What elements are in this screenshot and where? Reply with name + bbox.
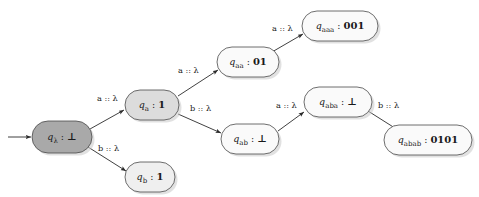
transition-edge-q_a-q_ab — [178, 114, 221, 133]
state-node-q_aaa[interactable]: qaaa : 001 — [302, 11, 381, 44]
edge-label-q_ab-q_aba: a :: λ — [276, 100, 297, 110]
edge-label-q_a-q_ab: b :: λ — [190, 103, 211, 113]
edge-label-q_aba-q_abab: b :: λ — [378, 100, 399, 110]
state-diagram-svg: qλ : ⊥qa : 1qb : 1qaa : 01qab : ⊥qaaa : … — [0, 0, 479, 197]
transition-edge-q_aa-q_aaa — [272, 34, 303, 52]
state-node-q_ab[interactable]: qab : ⊥ — [221, 124, 282, 157]
edge-label-q_lambda-q_a: a :: λ — [97, 93, 118, 103]
state-node-q_aa[interactable]: qaa : 01 — [217, 47, 282, 80]
edge-label-q_lambda-q_b: b :: λ — [98, 143, 119, 153]
transition-edge-q_ab-q_aba — [278, 112, 304, 131]
state-node-q_lambda[interactable]: qλ : ⊥ — [32, 121, 95, 156]
state-node-q_b[interactable]: qb : 1 — [125, 162, 178, 195]
state-node-q_aba[interactable]: qaba : ⊥ — [304, 87, 375, 120]
edge-label-q_aa-q_aaa: a :: λ — [272, 23, 293, 33]
edge-label-q_a-q_aa: a :: λ — [178, 65, 199, 75]
state-node-q_abab[interactable]: qabab : 0101 — [384, 125, 475, 158]
state-diagram-canvas: qλ : ⊥qa : 1qb : 1qaa : 01qab : ⊥qaaa : … — [0, 0, 479, 197]
transition-edge-q_lambda-q_a — [90, 110, 124, 129]
state-node-q_a[interactable]: qa : 1 — [125, 90, 182, 123]
